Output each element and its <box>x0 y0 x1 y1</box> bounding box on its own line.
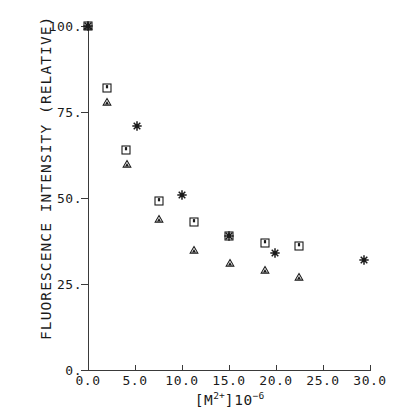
star-data-point <box>224 230 235 241</box>
x-tick-mark <box>229 365 230 371</box>
triangle-data-point <box>224 258 235 269</box>
triangle-data-point <box>154 213 165 224</box>
square-data-point <box>154 196 165 207</box>
x-axis-title-base: [M <box>195 392 214 408</box>
scatter-plot-figure: 0.25.50.75.100. 0.05.010.015.020.025.030… <box>0 0 395 419</box>
x-axis-title-superscript-charge: 2+ <box>213 390 225 401</box>
x-axis-title-mid: ]10 <box>225 392 253 408</box>
x-tick-mark <box>323 365 324 371</box>
x-axis-title-superscript-exponent: −6 <box>253 390 265 401</box>
square-data-point <box>189 217 200 228</box>
x-tick-mark <box>370 365 371 371</box>
square-data-point <box>259 237 270 248</box>
y-tick-mark <box>81 370 88 371</box>
triangle-data-point <box>101 96 112 107</box>
triangle-data-point <box>121 158 132 169</box>
star-data-point <box>177 189 188 200</box>
x-axis-title: [M2+]10−6 <box>88 390 371 408</box>
x-tick-mark <box>135 365 136 371</box>
square-data-point <box>120 144 131 155</box>
y-tick-mark <box>81 198 88 199</box>
x-tick-mark <box>88 365 89 371</box>
square-data-point <box>101 82 112 93</box>
star-data-point <box>270 248 281 259</box>
y-axis-line <box>88 26 89 371</box>
y-tick-mark <box>81 112 88 113</box>
star-data-point <box>359 254 370 265</box>
triangle-data-point <box>293 272 304 283</box>
x-tick-label: 30.0 <box>340 374 395 387</box>
square-data-point <box>224 230 235 241</box>
star-data-point <box>131 120 142 131</box>
y-axis-title: FLUORESCENCE INTENSITY (RELATIVE) <box>38 40 54 340</box>
x-tick-mark <box>182 365 183 371</box>
y-tick-mark <box>81 26 88 27</box>
x-tick-mark <box>276 365 277 371</box>
triangle-data-point <box>259 265 270 276</box>
y-tick-mark <box>81 284 88 285</box>
triangle-data-point <box>189 244 200 255</box>
square-data-point <box>293 241 304 252</box>
